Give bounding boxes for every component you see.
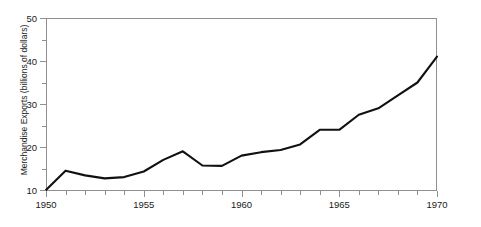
y-minor-tick-35	[42, 83, 46, 84]
x-minor-tick-1952	[85, 191, 86, 195]
plot-area: 102030405019501955196019651970	[46, 18, 437, 190]
x-minor-tick-1963	[300, 191, 301, 195]
y-tick-label-50: 50	[26, 13, 37, 24]
y-tick-label-20: 20	[26, 142, 37, 153]
x-minor-tick-1954	[124, 191, 125, 195]
y-tick-label-40: 40	[26, 56, 37, 67]
x-minor-tick-1961	[261, 191, 262, 195]
exports-line-path	[46, 57, 437, 190]
y-tick-50	[40, 18, 46, 19]
x-tick-label-1970: 1970	[426, 199, 447, 210]
x-minor-tick-1959	[222, 191, 223, 195]
x-tick-1950	[46, 191, 47, 197]
y-minor-tick-25	[42, 126, 46, 127]
x-minor-tick-1966	[359, 191, 360, 195]
y-tick-label-30: 30	[26, 99, 37, 110]
x-minor-tick-1964	[320, 191, 321, 195]
x-tick-label-1960: 1960	[231, 199, 252, 210]
y-tick-40	[40, 61, 46, 62]
x-minor-tick-1962	[281, 191, 282, 195]
clipped-caption-strip	[0, 0, 481, 7]
x-tick-1965	[339, 191, 340, 197]
x-minor-tick-1958	[202, 191, 203, 195]
x-tick-label-1955: 1955	[133, 199, 154, 210]
figure-root: Merchandise Exports (billions of dollars…	[0, 0, 481, 227]
y-tick-label-10: 10	[26, 185, 37, 196]
y-minor-tick-15	[42, 169, 46, 170]
y-tick-30	[40, 104, 46, 105]
exports-line-series	[46, 18, 437, 190]
x-minor-tick-1967	[378, 191, 379, 195]
x-minor-tick-1969	[417, 191, 418, 195]
x-tick-1955	[144, 191, 145, 197]
x-tick-label-1950: 1950	[35, 199, 56, 210]
x-minor-tick-1951	[66, 191, 67, 195]
x-minor-tick-1953	[105, 191, 106, 195]
x-minor-tick-1957	[183, 191, 184, 195]
y-minor-tick-45	[42, 40, 46, 41]
x-minor-tick-1956	[163, 191, 164, 195]
x-tick-1970	[437, 191, 438, 197]
x-tick-label-1965: 1965	[329, 199, 350, 210]
y-tick-20	[40, 147, 46, 148]
x-tick-1960	[242, 191, 243, 197]
x-minor-tick-1968	[398, 191, 399, 195]
